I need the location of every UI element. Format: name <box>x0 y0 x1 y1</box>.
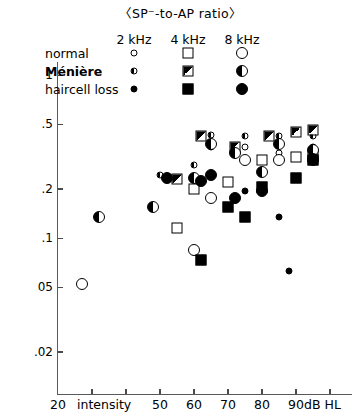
y-axis-tick-label: .2 <box>42 183 53 195</box>
scatter-point <box>308 124 319 135</box>
scatter-point <box>273 138 285 150</box>
scatter-point <box>76 278 88 290</box>
legend-marker-meniere-f4 <box>183 66 194 77</box>
x-axis-tick <box>295 389 296 394</box>
scatter-point <box>205 169 217 181</box>
x-axis-tick <box>159 389 160 394</box>
scatter-point <box>191 162 198 169</box>
scatter-point <box>291 172 302 183</box>
scatter-point <box>256 166 268 178</box>
legend-marker-haircell-f2 <box>131 86 138 93</box>
scatter-point <box>93 211 105 223</box>
x-axis-tick-label: 70 <box>220 398 236 412</box>
y-axis-tick-label: .5 <box>42 118 53 130</box>
legend-marker-haircell-f8 <box>236 83 248 95</box>
chart-figure: 〈SP⁻-to-AP ratio〉 1.5.2.105.02 205060708… <box>0 0 361 418</box>
legend-marker-meniere-f8 <box>236 65 248 77</box>
y-axis-tick <box>58 238 63 239</box>
legend-column-header-f2: 2 kHz <box>116 33 151 46</box>
y-axis-tick-label: .02 <box>34 346 53 358</box>
legend-row-label-normal: normal <box>45 47 89 60</box>
scatter-point <box>208 131 215 138</box>
scatter-point <box>291 126 302 137</box>
scatter-point <box>307 153 319 165</box>
scatter-point <box>276 213 283 220</box>
scatter-point <box>242 144 249 151</box>
legend-column-header-f4: 4 kHz <box>170 33 205 46</box>
scatter-point <box>229 192 241 204</box>
y-axis-tick <box>58 287 63 288</box>
legend-marker-normal-f2 <box>131 50 138 57</box>
x-axis-tick <box>261 389 262 394</box>
x-axis-tick-label: 90 <box>288 398 304 412</box>
scatter-point <box>240 211 251 222</box>
legend-marker-normal-f8 <box>236 47 248 59</box>
x-axis-tick-label: 60 <box>186 398 202 412</box>
y-axis-tick-label: 05 <box>38 281 53 293</box>
y-axis-tick <box>58 188 63 189</box>
legend-marker-meniere-f2 <box>131 68 138 75</box>
scatter-point <box>161 172 173 184</box>
x-axis-tick-label: 20 <box>50 398 66 412</box>
scatter-point <box>256 185 268 197</box>
y-axis-tick-label: .1 <box>42 232 53 244</box>
x-axis-tick <box>227 389 228 394</box>
x-axis-caption: intensity <box>77 398 131 412</box>
scatter-point <box>205 192 217 204</box>
scatter-point <box>239 154 251 166</box>
y-axis-tick <box>58 124 63 125</box>
x-axis-tick-label: 80 <box>254 398 270 412</box>
x-axis-line <box>57 394 352 395</box>
scatter-point <box>205 138 217 150</box>
x-axis-unit-label: dB HL <box>304 398 341 412</box>
x-axis-tick <box>329 389 330 394</box>
scatter-point <box>291 151 302 162</box>
x-axis-tick <box>193 389 194 394</box>
scatter-point <box>172 223 183 234</box>
scatter-point <box>286 267 293 274</box>
y-axis-line <box>57 62 58 395</box>
scatter-point <box>147 201 159 213</box>
scatter-point <box>223 177 234 188</box>
scatter-point <box>188 244 200 256</box>
legend-row-label-meniere: Ménière <box>45 65 102 78</box>
scatter-point <box>195 255 206 266</box>
scatter-point <box>273 154 285 166</box>
x-axis-tick <box>125 389 126 394</box>
x-axis-tick <box>91 389 92 394</box>
scatter-point <box>172 174 183 185</box>
legend-marker-normal-f4 <box>183 48 194 59</box>
scatter-point <box>242 187 249 194</box>
scatter-point <box>242 133 249 140</box>
scatter-point <box>257 155 268 166</box>
scatter-point <box>195 131 206 142</box>
scatter-point <box>229 147 241 159</box>
x-axis-tick-label: 50 <box>152 398 168 412</box>
chart-title: 〈SP⁻-to-AP ratio〉 <box>0 3 361 22</box>
legend-marker-haircell-f4 <box>183 84 194 95</box>
legend-row-label-haircell: haircell loss <box>45 83 119 96</box>
legend-column-header-f8: 8 kHz <box>224 33 259 46</box>
scatter-point <box>263 131 274 142</box>
y-axis-tick <box>58 351 63 352</box>
